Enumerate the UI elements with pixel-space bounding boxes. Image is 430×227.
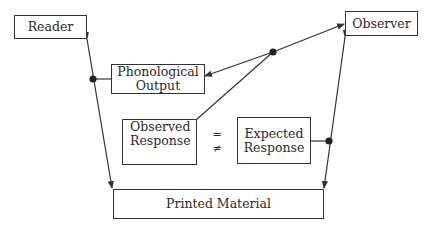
- observed-response-line1: Observed: [130, 120, 191, 134]
- printed-material-label: Printed Material: [166, 197, 271, 211]
- observer-label: Observer: [352, 17, 410, 31]
- observer-printed-line: [324, 37, 345, 188]
- expected-response-line2: Response: [244, 141, 305, 155]
- observed-response-line2: Response: [130, 134, 191, 148]
- center-to-observer-arrow: [273, 24, 344, 52]
- phonological-output-box: Phonological Output: [111, 64, 205, 94]
- expected-response-line1: Expected: [245, 127, 304, 141]
- reader-printed-line: [87, 39, 112, 188]
- expected-response-box: Expected Response: [237, 117, 311, 164]
- observed-response-box: Observed Response: [122, 119, 197, 165]
- center-junction-dot: [269, 48, 276, 55]
- observer-box: Observer: [345, 11, 418, 36]
- observed-to-center-line: [196, 52, 273, 120]
- right-junction-dot: [325, 137, 332, 144]
- reader-label: Reader: [28, 20, 74, 34]
- not-equal-symbol: ≠: [210, 141, 224, 156]
- equal-symbol: =: [210, 127, 224, 142]
- printed-material-box: Printed Material: [113, 189, 324, 219]
- phonological-output-line1: Phonological: [117, 65, 199, 79]
- reader-box: Reader: [14, 15, 87, 39]
- left-junction-dot: [89, 75, 96, 82]
- phonological-output-line2: Output: [136, 79, 180, 93]
- center-to-phonological-arrow: [205, 52, 273, 76]
